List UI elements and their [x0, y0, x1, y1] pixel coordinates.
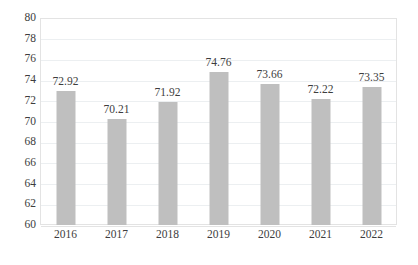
bar-slot: 72.22: [295, 18, 346, 225]
y-axis-tick-label: 74: [2, 74, 36, 86]
bar[interactable]: [260, 84, 279, 225]
bar[interactable]: [209, 72, 228, 225]
bars-layer: 72.9270.2171.9274.7673.6672.2273.35: [40, 18, 397, 225]
bar-chart: 8078767472706866646260 72.9270.2171.9274…: [0, 0, 418, 265]
y-axis-tick-label: 78: [2, 33, 36, 45]
bar[interactable]: [311, 99, 330, 225]
y-axis-tick-label: 76: [2, 54, 36, 66]
bar-slot: 74.76: [193, 18, 244, 225]
x-axis-tick-label: 2022: [360, 229, 383, 241]
bar[interactable]: [362, 87, 381, 225]
bar-slot: 71.92: [142, 18, 193, 225]
y-axis-tick-label: 70: [2, 116, 36, 128]
y-axis-tick-label: 64: [2, 178, 36, 190]
y-axis-tick-label: 80: [2, 12, 36, 24]
bar-slot: 73.66: [244, 18, 295, 225]
x-axis: 2016201720182019202020212022: [40, 229, 397, 249]
y-axis-tick-label: 62: [2, 199, 36, 211]
x-axis-tick-label: 2016: [54, 229, 77, 241]
bar[interactable]: [56, 91, 75, 225]
bar-value-label: 70.21: [104, 104, 130, 116]
y-axis-tick-label: 66: [2, 157, 36, 169]
x-axis-tick-label: 2019: [207, 229, 230, 241]
bar-slot: 73.35: [346, 18, 397, 225]
x-axis-tick-label: 2020: [258, 229, 281, 241]
bar-value-label: 74.76: [206, 57, 232, 69]
bar[interactable]: [158, 102, 177, 225]
x-axis-tick-label: 2021: [309, 229, 332, 241]
bar-value-label: 72.92: [53, 76, 79, 88]
y-axis: 8078767472706866646260: [0, 0, 36, 265]
x-axis-tick-label: 2017: [105, 229, 128, 241]
y-axis-tick-label: 60: [2, 219, 36, 231]
bar-value-label: 73.35: [359, 72, 385, 84]
y-axis-tick-label: 72: [2, 95, 36, 107]
gridline: [41, 226, 396, 227]
bar-slot: 72.92: [40, 18, 91, 225]
bar-slot: 70.21: [91, 18, 142, 225]
bar-value-label: 73.66: [257, 69, 283, 81]
x-axis-tick-label: 2018: [156, 229, 179, 241]
bar-value-label: 71.92: [155, 87, 181, 99]
bar-value-label: 72.22: [308, 84, 334, 96]
bar[interactable]: [107, 119, 126, 225]
y-axis-tick-label: 68: [2, 136, 36, 148]
